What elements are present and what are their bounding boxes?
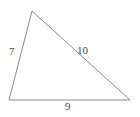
- triangle-figure: 7 10 9: [0, 0, 140, 117]
- side-label-base: 9: [65, 101, 71, 112]
- side-label-left: 7: [9, 46, 15, 57]
- triangle-outline: [9, 11, 130, 100]
- side-label-hypotenuse: 10: [77, 45, 88, 56]
